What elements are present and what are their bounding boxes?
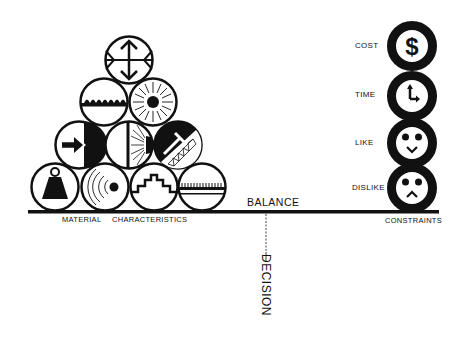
decision-label: DECISION [259,254,273,316]
like-label: LIKE [355,138,374,147]
stepped-profile-icon [131,164,178,211]
dislike-label: DISLIKE [352,183,385,192]
dollar-icon: $ [392,26,433,67]
material-label: MATERIAL [62,215,101,224]
svg-text:$: $ [405,33,419,60]
penetration-arrow-icon [56,122,108,169]
characteristics-label: CHARACTERISTICS [112,215,187,224]
happy-face-icon [392,123,433,164]
sad-face-icon [392,168,433,209]
weight-icon [32,164,79,211]
balance-label: BALANCE [247,196,300,208]
constraints-label: CONSTRAINTS [385,216,442,225]
radiant-sun-icon [130,79,177,126]
decision-balance-diagram: $ [0,0,466,337]
cost-label: COST [355,41,378,50]
time-label: TIME [355,90,375,99]
expansion-arrows-icon [106,37,153,84]
texture-surface-icon [179,164,226,211]
clock-icon [392,76,433,117]
light-transmission-icon [106,122,155,169]
sound-waves-icon [82,164,129,211]
balance-beam [28,210,439,214]
structure-truss-icon [155,122,202,169]
water-surface-icon [81,79,128,126]
